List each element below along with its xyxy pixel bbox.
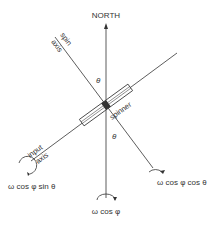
rotation-arrowhead-input-icon (27, 172, 30, 176)
north-arrow-icon (104, 23, 108, 29)
north-label: NORTH (92, 11, 121, 20)
rotation-arrow-input-icon (19, 156, 37, 174)
gyrocompass-diagram: NORTH spin axis input axis spinner θ θ ω… (0, 0, 216, 226)
rotation-arrowhead-vertical-icon (113, 197, 117, 201)
theta-upper-label: θ (96, 76, 101, 85)
rotation-arrow-spin-icon (149, 170, 162, 172)
component-input-label: ω cos φ sin θ (8, 182, 56, 191)
theta-lower-label: θ (112, 132, 117, 141)
component-spin-label: ω cos φ cos θ (157, 178, 207, 187)
component-vertical-label: ω cos φ (92, 207, 120, 216)
